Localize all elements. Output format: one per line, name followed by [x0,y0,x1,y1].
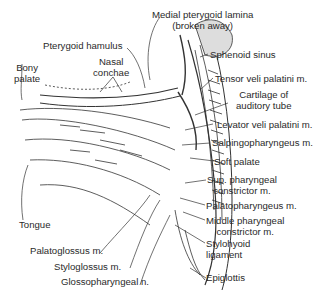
label-tongue: Tongue [19,219,50,230]
label-sphenoid-sinus: Sphenoid sinus [210,49,276,60]
label-stylohyoid-ligament: Stylohyoid ligament [206,238,250,260]
label-styloglossus: Styloglossus m. [54,261,121,272]
label-middle-pharyngeal-constrictor: Middle pharyngeal constrictor m. [206,215,284,237]
label-sup-pharyngeal-constrictor: Sup. pharyngeal constrictor m. [207,174,277,196]
label-salpingopharyngeus: Salpingopharyngeus m. [212,137,313,148]
label-text: auditory tube [236,100,291,111]
label-text: constrictor m. [207,185,277,196]
label-pterygoid-hamulus: Pterygoid hamulus [43,40,122,51]
label-text: Medial pterygoid lamina [152,9,253,20]
label-text: conchae [93,67,129,78]
label-cartilage-auditory-tube: Cartilage of auditory tube [236,89,291,111]
label-nasal-conchae: Nasal conchae [93,56,129,78]
label-text: palate [14,73,40,84]
label-tensor-veli-palatini: Tensor veli palatini m. [215,73,307,84]
label-medial-pterygoid-lamina: Medial pterygoid lamina (broken away) [152,9,253,31]
label-text: Cartilage of [236,89,291,100]
label-text: Middle pharyngeal [206,215,284,226]
label-text: Sup. pharyngeal [207,174,277,185]
label-text: ligament [206,249,250,260]
label-text: constrictor m. [206,226,284,237]
anatomy-figure: Medial pterygoid lamina (broken away) Pt… [0,0,329,304]
label-palatoglossus: Palatoglossus m. [30,245,103,256]
label-text: Bony [14,62,40,73]
label-text: Stylohyoid [206,238,250,249]
label-glossopharyngeal: Glossopharyngeal n. [61,276,149,287]
label-bony-palate: Bony palate [14,62,40,84]
label-palatopharyngeus: Palatopharyngeus m. [206,200,297,211]
label-text: Nasal [93,56,129,67]
label-soft-palate: Soft palate [214,156,260,167]
label-epiglottis: Epiglottis [206,272,245,283]
label-levator-veli-palatini: Levator veli palatini m. [217,119,312,130]
label-text: (broken away) [152,20,253,31]
